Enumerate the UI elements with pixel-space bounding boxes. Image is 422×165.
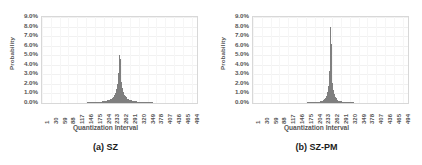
x-axis-tick-label: 436: [176, 114, 182, 124]
chart-panel-sz: Probability 0.0%1.0%2.0%3.0%4.0%5.0%6.0%…: [0, 0, 211, 165]
figure-container: Probability 0.0%1.0%2.0%3.0%4.0%5.0%6.0%…: [0, 0, 422, 165]
chart-panel-sz-pm: Probability 0.0%1.0%2.0%3.0%4.0%5.0%6.0%…: [211, 0, 422, 165]
x-axis-tick-label: 88: [281, 117, 287, 124]
x-axis-tick-label: 407: [378, 114, 384, 124]
x-axis-tick-label: 407: [167, 114, 173, 124]
x-axis-tick-label: 291: [132, 114, 138, 124]
x-axis-tick-label: 291: [343, 114, 349, 124]
x-axis-tick-label: 146: [88, 114, 94, 124]
y-axis-tick-label: 9.0%: [8, 13, 38, 19]
x-axis-tick-label: 320: [141, 114, 147, 124]
y-axis-tick-label: 9.0%: [219, 13, 249, 19]
y-axis-tick-label: 8.0%: [8, 23, 38, 29]
y-axis-tick-label: 6.0%: [8, 42, 38, 48]
y-axis-tick-label: 0.0%: [219, 99, 249, 105]
x-axis-tick-label: 262: [123, 114, 129, 124]
y-axis-tick-label: 4.0%: [8, 61, 38, 67]
bar-series: [253, 17, 408, 103]
x-axis-tick-label: 117: [290, 114, 296, 124]
bar-series: [42, 17, 197, 103]
x-axis-title: Quantization Interval: [211, 124, 422, 131]
x-axis-tick-label: 436: [387, 114, 393, 124]
x-axis-tick-label: 59: [273, 117, 279, 124]
panel-caption: (a) SZ: [0, 142, 211, 152]
plot-area: [252, 16, 409, 104]
x-axis-tick-label: 262: [334, 114, 340, 124]
x-axis-title: Quantization Interval: [0, 124, 211, 131]
y-axis-tick-label: 3.0%: [219, 70, 249, 76]
y-axis-tick-label: 2.0%: [219, 80, 249, 86]
x-axis-tick-label: 146: [299, 114, 305, 124]
x-axis-tick-label: 233: [114, 114, 120, 124]
x-axis-tick-label: 494: [405, 114, 411, 124]
y-axis-tick-label: 5.0%: [219, 51, 249, 57]
x-axis-tick-label: 204: [106, 114, 112, 124]
x-axis-tick-label: 30: [53, 117, 59, 124]
x-axis-tick-label: 175: [308, 114, 314, 124]
x-axis-tick-label: 349: [150, 114, 156, 124]
y-axis-tick-label: 1.0%: [8, 89, 38, 95]
y-axis-tick-label: 6.0%: [219, 42, 249, 48]
y-axis-tick-label: 5.0%: [8, 51, 38, 57]
y-axis-tick-label: 1.0%: [219, 89, 249, 95]
y-axis-tick-label: 8.0%: [219, 23, 249, 29]
y-axis-tick-label: 4.0%: [219, 61, 249, 67]
x-axis-tick-label: 378: [158, 114, 164, 124]
chart-sz-pm: Probability 0.0%1.0%2.0%3.0%4.0%5.0%6.0%…: [211, 4, 422, 134]
x-axis-tick-label: 494: [194, 114, 200, 124]
y-axis-ticks: 0.0%1.0%2.0%3.0%4.0%5.0%6.0%7.0%8.0%9.0%: [8, 16, 38, 104]
x-axis-tick-label: 117: [79, 114, 85, 124]
gridline: [253, 103, 408, 104]
plot-area: [41, 16, 198, 104]
x-axis-tick-label: 349: [361, 114, 367, 124]
x-axis-tick-label: 233: [325, 114, 331, 124]
y-axis-tick-label: 0.0%: [8, 99, 38, 105]
panel-caption: (b) SZ-PM: [211, 142, 422, 152]
y-axis-tick-label: 3.0%: [8, 70, 38, 76]
x-axis-tick-label: 204: [317, 114, 323, 124]
y-axis-tick-label: 7.0%: [8, 32, 38, 38]
x-axis-tick-label: 175: [97, 114, 103, 124]
x-axis-tick-label: 88: [70, 117, 76, 124]
x-axis-tick-label: 465: [396, 114, 402, 124]
gridline: [42, 103, 197, 104]
x-axis-tick-label: 378: [369, 114, 375, 124]
x-axis-tick-label: 320: [352, 114, 358, 124]
x-axis-tick-label: 59: [62, 117, 68, 124]
chart-sz: Probability 0.0%1.0%2.0%3.0%4.0%5.0%6.0%…: [0, 4, 211, 134]
y-axis-ticks: 0.0%1.0%2.0%3.0%4.0%5.0%6.0%7.0%8.0%9.0%: [219, 16, 249, 104]
y-axis-tick-label: 2.0%: [8, 80, 38, 86]
y-axis-tick-label: 7.0%: [219, 32, 249, 38]
x-axis-tick-label: 30: [264, 117, 270, 124]
x-axis-tick-label: 465: [185, 114, 191, 124]
